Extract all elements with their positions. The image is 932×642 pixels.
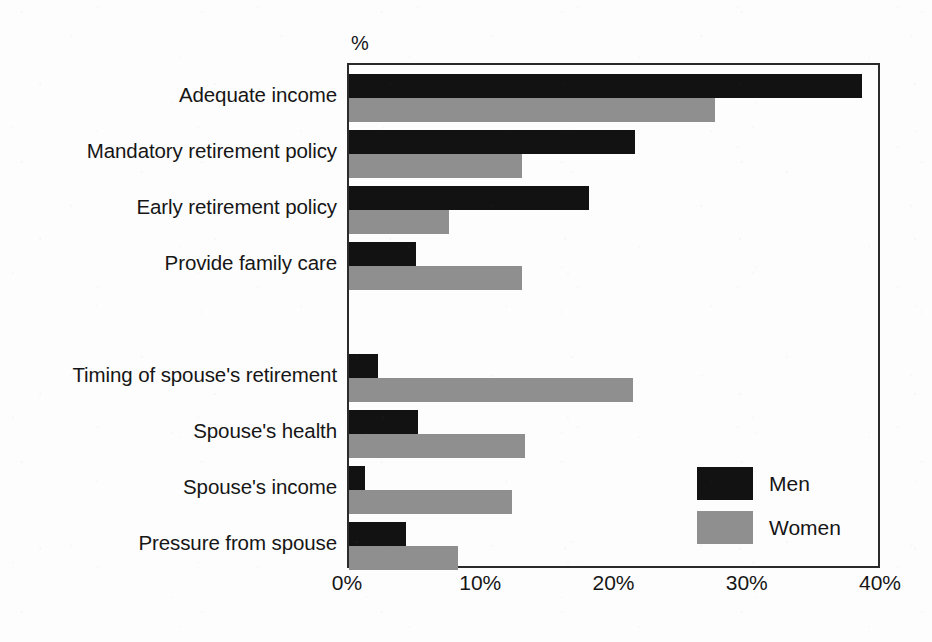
- bar-men: [349, 466, 365, 490]
- legend-item: Men: [697, 461, 841, 505]
- category-label: Provide family care: [0, 253, 337, 274]
- category-label: Spouse's income: [0, 477, 337, 498]
- bar-men: [349, 186, 589, 210]
- legend-label: Men: [769, 473, 810, 494]
- bar-men: [349, 74, 862, 98]
- bar-women: [349, 434, 525, 458]
- bar-women: [349, 490, 512, 514]
- bar-men: [349, 242, 416, 266]
- x-tick-label: 0%: [332, 572, 362, 593]
- x-tick-label: 20%: [592, 572, 634, 593]
- bar-men: [349, 130, 635, 154]
- legend-swatch-men: [697, 467, 753, 500]
- bar-men: [349, 522, 406, 546]
- bar-women: [349, 98, 715, 122]
- category-label: Pressure from spouse: [0, 533, 337, 554]
- y-axis-unit-label: %: [351, 33, 369, 53]
- legend-item: Women: [697, 505, 841, 549]
- bar-women: [349, 154, 522, 178]
- category-axis-labels: Adequate incomeMandatory retirement poli…: [0, 0, 337, 642]
- bar-women: [349, 210, 449, 234]
- category-label: Mandatory retirement policy: [0, 141, 337, 162]
- x-tick-label: 10%: [459, 572, 501, 593]
- category-label: Adequate income: [0, 85, 337, 106]
- x-axis-tick-labels: 0%10%20%30%40%: [0, 572, 932, 612]
- bar-men: [349, 354, 378, 378]
- x-tick-label: 40%: [859, 572, 901, 593]
- category-label: Spouse's health: [0, 421, 337, 442]
- x-tick-label: 30%: [726, 572, 768, 593]
- bar-men: [349, 410, 418, 434]
- bar-women: [349, 546, 458, 570]
- category-label: Timing of spouse's retirement: [0, 365, 337, 386]
- legend-swatch-women: [697, 511, 753, 544]
- chart-legend: MenWomen: [697, 461, 841, 549]
- category-label: Early retirement policy: [0, 197, 337, 218]
- bar-chart: % Adequate incomeMandatory retirement po…: [0, 0, 932, 642]
- legend-label: Women: [769, 517, 841, 538]
- bar-women: [349, 266, 522, 290]
- bar-women: [349, 378, 633, 402]
